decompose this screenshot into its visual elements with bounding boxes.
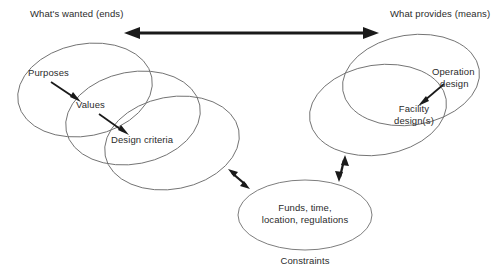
- label-design-criteria: Design criteria: [111, 134, 173, 146]
- arrowhead-mini-right-up: [341, 155, 349, 166]
- arrowhead-left: [124, 27, 140, 39]
- label-operation-design-line1: Operation: [432, 66, 475, 78]
- label-operation-design-line2: design: [440, 78, 469, 90]
- diagram-vector-layer: [0, 0, 495, 276]
- ellipse-facility-design: [303, 55, 453, 165]
- label-values: Values: [76, 99, 105, 111]
- left-cluster-ellipses: [9, 32, 247, 201]
- label-purposes: Purposes: [28, 67, 69, 79]
- label-constraints-line2: location, regulations: [262, 214, 349, 226]
- values-to-criteria-arrow: [99, 114, 129, 135]
- diagram-canvas: What's wanted (ends) What provides (mean…: [0, 0, 495, 276]
- right-cluster-ellipses: [303, 25, 486, 165]
- left-constraints-link-arrow: [228, 169, 250, 189]
- arrowhead-right: [363, 27, 379, 39]
- title-ends: What's wanted (ends): [30, 8, 123, 20]
- label-facility-design-line1: Facility: [399, 103, 429, 115]
- title-means: What provides (means): [390, 8, 490, 20]
- label-constraints-caption: Constraints: [280, 255, 329, 267]
- right-constraints-link-arrow: [335, 155, 349, 182]
- label-constraints-line1: Funds, time,: [278, 202, 331, 214]
- arrowhead-mini-right-down: [335, 171, 343, 182]
- main-double-headed-arrow: [124, 27, 379, 39]
- label-facility-design-line2: design(s): [394, 115, 434, 127]
